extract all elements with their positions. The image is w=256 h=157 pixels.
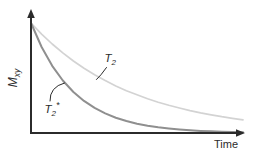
t2star-leader-line <box>50 83 65 101</box>
t2star-label: T2* <box>45 100 60 119</box>
t2star-decay-curve <box>31 23 243 132</box>
decay-chart: T2 T2* Time Mxy <box>0 0 256 157</box>
t2-label-subscript: 2 <box>111 58 117 67</box>
x-axis-arrowhead-icon <box>236 129 245 137</box>
x-axis-label: Time <box>214 138 238 150</box>
t2star-label-asterisk: * <box>56 100 60 110</box>
y-axis-label-main: M <box>6 77 20 87</box>
relaxation-decay-figure: T2 T2* Time Mxy <box>0 0 256 157</box>
t2-label: T2 <box>105 52 117 67</box>
t2star-label-subscript: 2 <box>51 109 57 118</box>
y-axis-arrowhead-icon <box>27 9 35 18</box>
y-axis-label: Mxy <box>6 68 22 87</box>
t2-decay-curve <box>31 23 243 120</box>
y-axis-label-subscript: xy <box>12 68 22 78</box>
